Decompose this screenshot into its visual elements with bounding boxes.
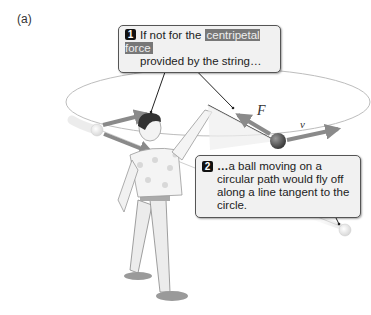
callout-2: 2 …a ball moving on a circular path woul…: [195, 155, 361, 218]
callout-number: 1: [125, 29, 136, 40]
velocity-label: v: [300, 118, 305, 130]
callout-text: If not for the: [140, 29, 201, 41]
callout-text: provided by the string…: [140, 55, 261, 67]
ellipsis: …: [217, 160, 229, 172]
ghost-ball-left: [91, 124, 103, 136]
force-label: F: [257, 103, 266, 119]
callout-text: a ball moving on a circular path would f…: [217, 160, 349, 211]
callout-number: 2: [202, 161, 213, 172]
velocity-arrow: [287, 129, 338, 140]
ball: [270, 133, 286, 149]
callout-1: 1If not for the centripetal force provid…: [118, 25, 281, 73]
ghost-ball-right: [339, 224, 351, 236]
